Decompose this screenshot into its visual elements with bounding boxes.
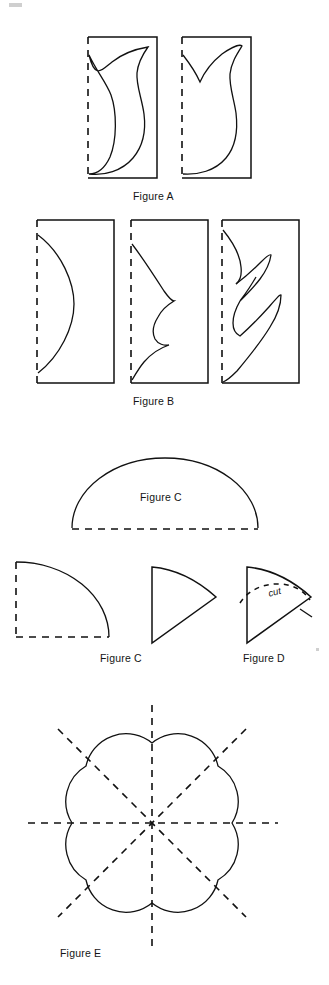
figure-b-panel-2-frame — [131, 220, 208, 383]
figure-b-panel-3-cut-leaf-2 — [236, 255, 271, 301]
figure-e-caption: Figure E — [60, 948, 101, 959]
figure-c-quarter-arc — [16, 562, 109, 637]
figure-d-caption: Figure D — [243, 653, 285, 664]
figure-e-drawing — [0, 685, 329, 985]
figure-a-panel-1-frame — [88, 37, 157, 178]
figure-c-quarter-caption: Figure C — [100, 653, 142, 664]
figure-plate: Figure A Figure B Figure C — [0, 0, 329, 985]
figure-b-panel-2-cut — [132, 244, 174, 380]
figure-d-cut-tick — [300, 609, 312, 617]
figure-a-panel-2-cut — [183, 45, 242, 174]
figure-c-dome-drawing — [0, 425, 329, 535]
figure-b-drawing — [0, 205, 329, 395]
figure-d-cone-shape — [247, 567, 311, 643]
figure-b-panel-1-cut — [38, 235, 74, 373]
figure-a-panel-1-cut — [89, 47, 148, 174]
figure-b-panel-3-cut-leaf-1 — [223, 230, 241, 284]
figure-a-drawing — [0, 0, 329, 200]
figure-c-cone-shape — [152, 567, 216, 643]
figure-c-dome-caption: Figure C — [140, 492, 182, 503]
figure-b-caption: Figure B — [133, 396, 174, 407]
figure-cd-drawing — [0, 553, 329, 663]
figure-a-caption: Figure A — [133, 191, 174, 202]
figure-b-panel-3-cut-leaf-3 — [223, 295, 281, 382]
